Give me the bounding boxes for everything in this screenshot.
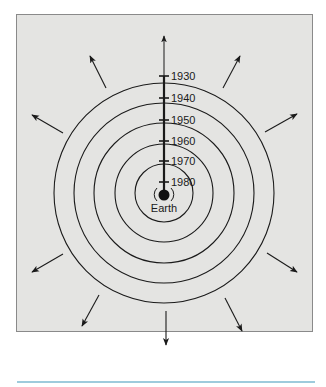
expanding-universe-diagram: 1930 1940 1950 1960 1970 1980 Earth <box>0 0 326 387</box>
arrow-lower-left-icon <box>82 295 99 326</box>
year-label-1940: 1940 <box>171 92 195 104</box>
arrow-upper-right-icon <box>223 56 240 88</box>
arrow-right-up-icon <box>265 114 297 132</box>
earth-label: Earth <box>151 202 177 214</box>
arrow-left-down-icon <box>32 254 63 272</box>
year-label-1930: 1930 <box>171 70 195 82</box>
arrow-right-down-icon <box>267 253 297 272</box>
arrow-lower-right-icon <box>225 298 242 331</box>
year-label-1960: 1960 <box>171 135 195 147</box>
year-label-1950: 1950 <box>171 114 195 126</box>
year-label-1980: 1980 <box>171 176 195 188</box>
arrow-left-up-icon <box>32 115 63 133</box>
earth-dot <box>159 190 170 201</box>
year-label-1970: 1970 <box>171 155 195 167</box>
arrow-upper-left-icon <box>90 56 106 88</box>
